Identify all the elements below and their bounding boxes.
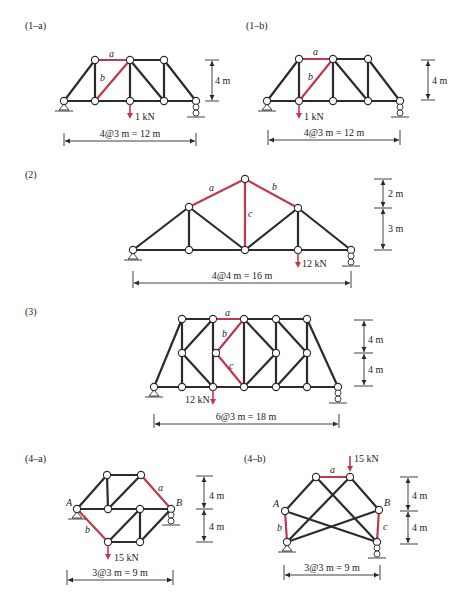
truss-nodes <box>129 175 354 253</box>
node-label-B: B <box>176 497 182 508</box>
figure-label: (4–a) <box>25 453 46 465</box>
figure-label: (2) <box>25 169 37 181</box>
figure-label: (3) <box>25 306 37 318</box>
load-arrow-icon <box>347 456 353 472</box>
figure-label: (1–b) <box>246 20 268 32</box>
figure-3: (3) <box>25 306 384 428</box>
roller-support-icon <box>391 104 409 117</box>
truss-members <box>133 179 351 250</box>
height-label: 4 m <box>215 75 231 86</box>
figure-label: (1–a) <box>25 20 46 32</box>
height-dimension <box>354 320 373 386</box>
span-label: 3@3 m = 9 m <box>304 562 360 573</box>
member-label-a: a <box>158 482 163 493</box>
member-label-c: c <box>383 521 388 532</box>
roller-support-icon <box>187 104 205 117</box>
member-b <box>77 509 108 542</box>
pin-support-icon <box>145 390 163 397</box>
truss-nodes <box>281 473 382 545</box>
member-a <box>189 179 245 207</box>
member-b <box>299 59 333 101</box>
roller-support-icon <box>342 253 360 266</box>
pin-support-icon <box>124 253 142 260</box>
member-a <box>141 475 171 509</box>
load-arrow-icon <box>210 390 216 405</box>
load-label: 12 kN <box>302 258 327 269</box>
figure-4b: (4–b) A B a b c 15 kN <box>244 453 428 580</box>
height-dimension <box>400 477 418 544</box>
roller-support-icon <box>368 545 386 558</box>
figure-1a: (1–a) a b 1 kN <box>25 20 231 146</box>
load-label: 1 kN <box>304 111 324 122</box>
member-label-a: a <box>330 464 335 475</box>
figure-2: (2) a b c 12 kN <box>25 169 404 288</box>
load-arrow-icon <box>105 545 111 560</box>
span-label: 4@3 m = 12 m <box>100 128 161 139</box>
height-label-bottom: 3 m <box>388 223 404 234</box>
member-label-c: c <box>248 208 253 219</box>
figure-1b: (1–b) a b 1 kN <box>246 20 448 145</box>
pin-support-icon <box>55 104 73 111</box>
load-arrow-icon <box>127 104 133 119</box>
member-label-b: b <box>272 181 277 192</box>
node-label-A: A <box>272 498 280 509</box>
member-label-b: b <box>222 328 227 339</box>
member-label-b: b <box>100 72 105 83</box>
member-b <box>285 511 287 542</box>
span-label: 4@3 m = 12 m <box>304 127 365 138</box>
member-b <box>216 319 244 353</box>
truss-members <box>64 60 196 101</box>
roller-support-icon <box>162 512 180 525</box>
height-label-top: 4 m <box>209 490 225 501</box>
truss-members <box>285 477 379 542</box>
pin-support-icon <box>258 104 276 111</box>
height-label-bottom: 4 m <box>368 364 384 375</box>
height-dimension <box>196 476 213 542</box>
node-label-B: B <box>384 497 390 508</box>
load-label: 1 kN <box>135 111 155 122</box>
node-label-A: A <box>65 497 73 508</box>
pin-support-icon <box>278 545 296 552</box>
load-arrow-icon <box>295 253 301 268</box>
member-label-a: a <box>313 46 318 57</box>
truss-members <box>77 475 171 542</box>
roller-support-icon <box>329 390 347 403</box>
figure-4a: (4–a) A B a b <box>25 453 225 585</box>
span-label: 3@3 m = 9 m <box>92 567 148 578</box>
member-label-b: b <box>277 522 282 533</box>
height-label-top: 4 m <box>368 334 384 345</box>
height-label-bottom: 4 m <box>209 521 225 532</box>
figure-label: (4–b) <box>244 453 266 465</box>
member-label-b: b <box>85 524 90 535</box>
height-label-bottom: 4 m <box>412 522 428 533</box>
load-arrow-icon <box>296 104 302 119</box>
load-label: 12 kN <box>185 394 210 405</box>
member-label-a: a <box>109 48 114 59</box>
height-label-top: 2 m <box>388 188 404 199</box>
member-label-a: a <box>209 182 214 193</box>
member-c <box>377 510 379 542</box>
truss-problems-figure: (1–a) a b 1 kN <box>0 0 461 604</box>
member-label-b: b <box>308 71 313 82</box>
height-label: 4 m <box>432 75 448 86</box>
member-label-a: a <box>225 307 230 318</box>
member-label-c: c <box>229 360 234 371</box>
span-label: 4@4 m = 16 m <box>212 270 273 281</box>
load-label: 15 kN <box>354 453 379 464</box>
truss-members <box>267 59 400 101</box>
height-label-top: 4 m <box>412 490 428 501</box>
load-label: 15 kN <box>114 552 139 563</box>
span-label: 6@3 m = 18 m <box>216 411 277 422</box>
